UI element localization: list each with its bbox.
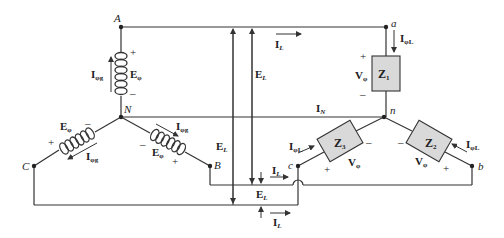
node-c <box>296 164 300 168</box>
label-v-phi-3: Vφ <box>348 156 361 170</box>
label-node-n: n <box>390 104 396 116</box>
label-line-voltage-bc: EL <box>256 188 268 202</box>
label-e-phi-c: Eφ <box>60 120 72 134</box>
minus-sign: – <box>84 117 91 129</box>
label-e-phi-a: Eφ <box>130 68 142 82</box>
minus-sign: – <box>365 136 372 148</box>
minus-sign: – <box>139 138 146 150</box>
node-C <box>32 164 36 168</box>
label-v-phi-2: Vφ <box>415 155 428 169</box>
label-i-phil-1: IφL <box>400 32 414 46</box>
plus-sign: + <box>443 162 449 174</box>
label-i-phil-3: IφL <box>289 140 303 154</box>
label-line-current-top: IL <box>275 38 284 52</box>
label-line-voltage-upper: EL <box>255 68 267 82</box>
label-line-voltage-lower: EL <box>216 140 228 154</box>
label-line-current-b: IL <box>272 164 281 178</box>
plus-sign: + <box>324 163 330 175</box>
label-node-B: B <box>214 159 221 171</box>
minus-sign: – <box>359 88 366 100</box>
label-node-A: A <box>113 12 121 24</box>
arrows <box>68 29 467 218</box>
label-line-current-c: IL <box>273 216 282 230</box>
node-B <box>208 164 212 168</box>
label-node-C: C <box>22 160 30 172</box>
node-a <box>384 25 388 29</box>
minus-sign: – <box>397 136 404 148</box>
plus-sign: + <box>48 136 54 148</box>
label-node-a: a <box>391 17 397 29</box>
label-i-phig-c: Iφg <box>86 150 99 164</box>
label-node-b: b <box>478 160 484 172</box>
plus-sign: + <box>360 50 366 62</box>
minus-sign: – <box>129 87 136 99</box>
label-i-phig-a: Iφg <box>91 68 104 82</box>
label-e-phi-b: Eφ <box>152 146 164 160</box>
label-v-phi-1: Vφ <box>355 69 368 83</box>
node-N <box>119 115 123 119</box>
plus-sign: + <box>130 46 136 58</box>
node-b <box>470 164 474 168</box>
node-dots <box>32 25 474 168</box>
coil-phase-a-icon <box>115 53 127 95</box>
three-phase-y-y-circuit: A N C B a n c b + – Eφ Iφg Eφ – + Iφg Iφ… <box>0 0 504 238</box>
plus-sign: + <box>172 155 178 167</box>
wires <box>34 27 472 205</box>
node-A <box>119 25 123 29</box>
label-i-phil-2: IφL <box>466 138 480 152</box>
node-n <box>382 115 386 119</box>
label-neutral-current: IN <box>316 102 326 116</box>
label-node-c: c <box>288 159 293 171</box>
label-i-phig-b: Iφg <box>176 120 189 134</box>
label-node-N: N <box>123 103 132 115</box>
